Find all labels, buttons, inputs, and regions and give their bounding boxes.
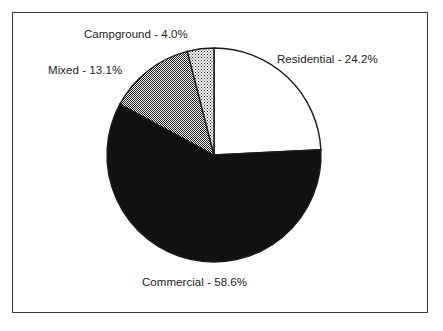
chart-figure: Campground - 4.0% Mixed - 13.1% Resident… xyxy=(0,0,443,331)
pie-label-commercial: Commercial - 58.6% xyxy=(142,276,247,289)
pie-label-mixed: Mixed - 13.1% xyxy=(48,64,122,77)
pie-label-residential: Residential - 24.2% xyxy=(277,53,378,66)
pie-label-campground: Campground - 4.0% xyxy=(84,28,188,41)
pie-slices-group xyxy=(107,48,321,262)
